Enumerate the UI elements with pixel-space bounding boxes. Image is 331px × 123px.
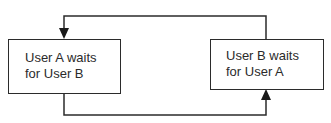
node-user-b-line1: User B waits — [226, 48, 299, 64]
arrowhead-up-icon — [261, 89, 271, 100]
node-user-a-line2: for User B — [25, 66, 97, 82]
edge-a-to-b — [64, 93, 266, 115]
edge-b-to-a — [64, 16, 266, 39]
node-user-a-label: User A waits for User B — [25, 50, 97, 82]
node-user-b-line2: for User A — [226, 64, 299, 80]
node-user-b-label: User B waits for User A — [226, 48, 299, 80]
arrowhead-down-icon — [59, 28, 69, 39]
node-user-a-line1: User A waits — [25, 50, 97, 66]
deadlock-diagram: User A waits for User B User B waits for… — [0, 0, 331, 123]
